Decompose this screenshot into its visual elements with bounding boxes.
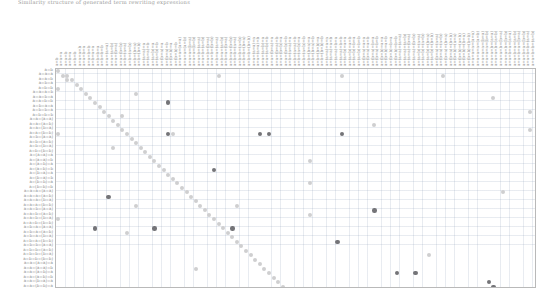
matrix-dot (166, 173, 170, 177)
matrix-dot (102, 110, 106, 114)
matrix-dot (194, 267, 198, 271)
matrix-dot (75, 83, 79, 87)
matrix-dot (162, 168, 166, 172)
matrix-dot (180, 186, 184, 190)
matrix-dot (157, 164, 161, 168)
matrix-dot (217, 74, 221, 78)
matrix-dot (235, 204, 239, 208)
matrix-dot (235, 240, 239, 244)
matrix-dot (125, 231, 129, 235)
column-label: a=a=b=b=(a=b) (531, 30, 535, 66)
matrix-dot (528, 110, 532, 114)
matrix-dot (139, 146, 143, 150)
matrix-dot (111, 146, 115, 150)
matrix-dot (84, 92, 88, 96)
similarity-matrix-figure: Similarity structure of generated term r… (0, 0, 552, 302)
matrix-dot (111, 119, 115, 123)
matrix-dot (130, 137, 134, 141)
matrix-dot (148, 155, 152, 159)
matrix-dot (152, 226, 156, 230)
matrix-dot (226, 231, 230, 235)
matrix-plot-panel (55, 68, 536, 288)
matrix-dot (372, 208, 376, 212)
grid-lines (56, 69, 535, 287)
matrix-dot (528, 128, 532, 132)
column-header-band: a=ba=a=aa=a=ba=b=aa=b=ba=a=a=ba=a=b=aa=a… (55, 0, 536, 68)
matrix-dot (106, 195, 110, 199)
matrix-dot (244, 249, 248, 253)
matrix-dot (171, 132, 175, 136)
matrix-dot (107, 114, 111, 118)
matrix-dot (281, 285, 285, 288)
matrix-dot (93, 101, 97, 105)
matrix-dot (116, 123, 120, 127)
matrix-dot (61, 74, 65, 78)
matrix-dot (272, 276, 276, 280)
matrix-dot (230, 226, 234, 230)
matrix-dot (441, 74, 445, 78)
matrix-dot (340, 74, 344, 78)
matrix-dot (217, 222, 221, 226)
row-label: a=a=(b=b)=a (24, 284, 53, 288)
matrix-dot (93, 226, 97, 230)
matrix-dot (171, 177, 175, 181)
matrix-dot (98, 105, 102, 109)
matrix-dot (134, 92, 138, 96)
matrix-dot (335, 240, 339, 244)
matrix-dot (491, 285, 495, 288)
row-header-band: a=ba=a=aa=a=ba=b=aa=b=ba=a=a=ba=a=b=aa=a… (0, 68, 54, 288)
